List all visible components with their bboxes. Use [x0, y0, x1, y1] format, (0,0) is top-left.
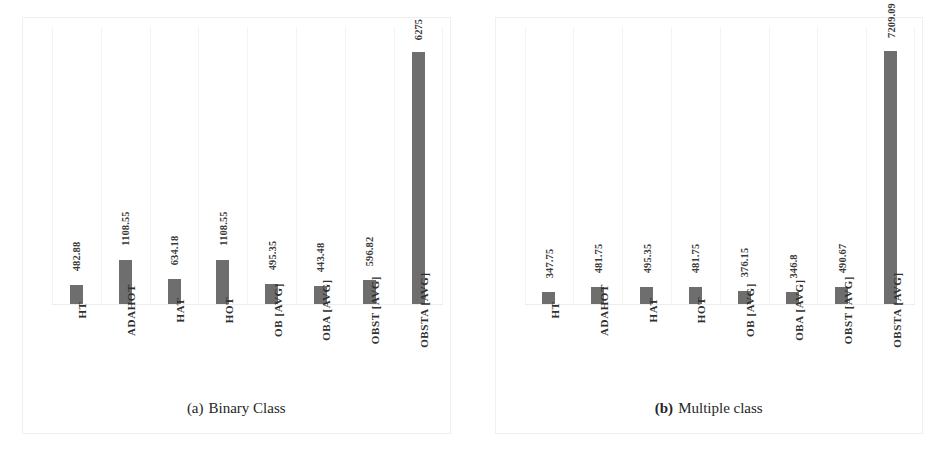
bar-group: 481.75: [671, 27, 720, 304]
category-tick: ADAHOT: [101, 308, 150, 392]
bar-value-label: 376.15: [739, 248, 750, 277]
category-label: HAT: [647, 298, 659, 323]
category-label: OB [AVG]: [272, 283, 284, 337]
category-tick: HT: [525, 308, 574, 392]
category-tick: OBA [AVG]: [296, 308, 345, 392]
panel-b-plot-area: 347.75481.75495.35481.75376.15346.8490.6…: [525, 27, 916, 304]
bar-value-label: 7209.09: [885, 3, 896, 38]
bar-group: 634.18: [150, 27, 199, 304]
panel-a-caption-tag: (a): [187, 400, 204, 416]
bar-value-label: 443.48: [315, 243, 326, 272]
category-label: HOT: [695, 297, 707, 323]
category-label: ADAHOT: [125, 284, 137, 336]
panel-b-category-labels: HTADAHOTHATHOTOB [AVG]OBA [AVG]OBST [AVG…: [525, 308, 916, 392]
panel-a-caption-text: Binary Class: [209, 400, 286, 416]
category-tick: OBSTA [AVG]: [866, 308, 915, 392]
bar-group: 495.35: [622, 27, 671, 304]
panel-a-bars: 482.881108.55634.181108.55495.35443.4859…: [52, 27, 443, 304]
category-tick: HOT: [671, 308, 720, 392]
bar-value-label: 481.75: [592, 244, 603, 273]
bar-value-label: 490.67: [836, 244, 847, 273]
category-label: HT: [76, 301, 88, 318]
panel-a-axis-baseline: [52, 304, 443, 305]
category-tick: OB [AVG]: [247, 308, 296, 392]
panel-b-caption: (b)Multiple class: [473, 400, 945, 417]
panel-a-category-labels: HTADAHOTHATHOTOB [AVG]OBA [AVG]OBST [AVG…: [52, 308, 443, 392]
category-label: OBST [AVG]: [369, 276, 381, 344]
bar-group: 376.15: [720, 27, 769, 304]
bar-value-label: 481.75: [690, 244, 701, 273]
panel-b-caption-text: Multiple class: [678, 400, 763, 416]
category-label: OBA [AVG]: [793, 279, 805, 341]
chart-panel-b: 347.75481.75495.35481.75376.15346.8490.6…: [473, 0, 945, 457]
category-label: HT: [549, 301, 561, 318]
category-label: OBSTA [AVG]: [891, 272, 903, 348]
bar-value-label: 347.75: [543, 249, 554, 278]
bar-group: 481.75: [573, 27, 622, 304]
category-label: HOT: [223, 297, 235, 323]
category-tick: OBSTA [AVG]: [394, 308, 443, 392]
category-label: HAT: [174, 298, 186, 323]
bar-group: 443.48: [296, 27, 345, 304]
category-tick: HAT: [622, 308, 671, 392]
panel-a-plot-area: 482.881108.55634.181108.55495.35443.4859…: [52, 27, 443, 304]
bar: [412, 52, 425, 304]
category-label: OBA [AVG]: [320, 279, 332, 341]
category-tick: HOT: [198, 308, 247, 392]
bar-value-label: 596.82: [364, 237, 375, 266]
bar-value-label: 1108.55: [120, 211, 131, 245]
bar-value-label: 346.8: [787, 254, 798, 278]
category-tick: HAT: [150, 308, 199, 392]
bar-group: 596.82: [345, 27, 394, 304]
category-label: OB [AVG]: [744, 283, 756, 337]
bar-value-label: 495.35: [641, 244, 652, 273]
figure-container: 482.881108.55634.181108.55495.35443.4859…: [0, 0, 945, 457]
bar-value-label: 6275: [413, 19, 424, 40]
panel-b-axis-baseline: [525, 304, 916, 305]
panel-a-caption: (a)Binary Class: [0, 400, 473, 417]
bar-group: 490.67: [817, 27, 866, 304]
bar-value-label: 1108.55: [217, 211, 228, 245]
category-tick: HT: [52, 308, 101, 392]
panel-b-caption-tag: (b): [655, 400, 673, 416]
bar-group: 495.35: [247, 27, 296, 304]
bar-group: 346.8: [769, 27, 818, 304]
category-tick: OB [AVG]: [720, 308, 769, 392]
category-tick: ADAHOT: [573, 308, 622, 392]
bar-value-label: 495.35: [266, 241, 277, 270]
bar-group: 6275: [394, 27, 443, 304]
bar-group: 7209.09: [866, 27, 915, 304]
category-tick: OBST [AVG]: [345, 308, 394, 392]
category-label: OBSTA [AVG]: [418, 272, 430, 348]
bar-group: 1108.55: [198, 27, 247, 304]
category-tick: OBST [AVG]: [817, 308, 866, 392]
bar-group: 1108.55: [101, 27, 150, 304]
category-label: ADAHOT: [598, 284, 610, 336]
bar: [884, 51, 897, 304]
chart-panel-a: 482.881108.55634.181108.55495.35443.4859…: [0, 0, 473, 457]
category-label: OBST [AVG]: [842, 276, 854, 344]
bar-value-label: 634.18: [169, 236, 180, 265]
bar-value-label: 482.88: [71, 242, 82, 271]
bar-group: 482.88: [52, 27, 101, 304]
category-tick: OBA [AVG]: [769, 308, 818, 392]
panel-b-bars: 347.75481.75495.35481.75376.15346.8490.6…: [525, 27, 916, 304]
bar-group: 347.75: [525, 27, 574, 304]
